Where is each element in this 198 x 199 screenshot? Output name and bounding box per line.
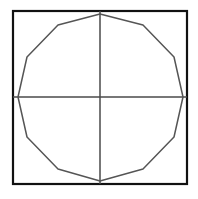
- diagram-canvas: [0, 0, 198, 199]
- geometry-figure: [0, 0, 198, 199]
